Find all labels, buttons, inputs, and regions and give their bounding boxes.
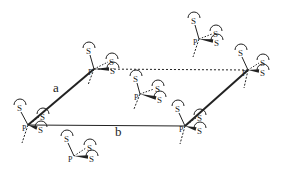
phosphorus-atom: P: [193, 38, 198, 47]
ps3-unit-ab-corner: PSSS: [235, 44, 269, 88]
ps3-unit-a-corner: PSSS: [83, 42, 119, 85]
sulfur-atom-r2: S: [260, 68, 265, 78]
sulfur-atom-up: S: [86, 46, 91, 56]
bond-solid: [90, 55, 94, 69]
sulfur-atom-r1: S: [40, 112, 45, 122]
lattice-diagram: PSSSPSSSPSSSPSSSPSSSPSSSPSSS a b: [0, 0, 283, 172]
axis-b-line: [28, 125, 185, 126]
phosphorus-atom: P: [134, 93, 139, 102]
phosphorus-atom: P: [88, 68, 93, 77]
bond-wedge: [28, 125, 38, 130]
diagram-svg: PSSSPSSSPSSSPSSSPSSSPSSSPSSS a b: [0, 0, 283, 172]
sulfur-atom-up: S: [238, 48, 243, 58]
sulfur-atom-r2: S: [214, 38, 219, 48]
sulfur-atom-up: S: [175, 104, 180, 114]
bond-dashed: [199, 34, 212, 39]
sulfur-atom-up: S: [17, 103, 22, 113]
sulfur-atom-r2: S: [89, 154, 94, 164]
axis-label-b: b: [115, 124, 122, 139]
cell-edge-right: [185, 70, 248, 126]
sulfur-atom-r2: S: [197, 126, 202, 136]
bond-wedge: [185, 126, 196, 131]
sulfur-atom-up: S: [133, 74, 138, 84]
ps3-unit-bottom: PSSS: [61, 130, 98, 164]
sulfur-atom-up: S: [191, 16, 196, 26]
sulfur-atom-r2: S: [38, 125, 43, 135]
sulfur-atom-r1: S: [197, 113, 202, 123]
ps3-unit-center: PSSS: [130, 70, 166, 109]
sulfur-atom-r2: S: [110, 66, 115, 76]
phosphorus-atom: P: [22, 124, 27, 133]
ps3-unit-upper-right: PSSS: [188, 12, 223, 57]
sulfur-atom-r1: S: [260, 58, 265, 68]
phosphorus-atom: P: [179, 125, 184, 134]
phosphorus-atom: P: [68, 155, 73, 164]
axis-a-line: [28, 69, 94, 125]
sulfur-atom-up: S: [64, 134, 69, 144]
bond-solid: [195, 25, 199, 39]
cell-edge-dotted: [94, 69, 248, 70]
sulfur-atom-r2: S: [157, 95, 162, 105]
bond-dashed: [140, 89, 154, 94]
phosphorus-atom: P: [242, 69, 247, 78]
axis-label-a: a: [53, 80, 59, 95]
bond-dashed: [74, 148, 86, 156]
